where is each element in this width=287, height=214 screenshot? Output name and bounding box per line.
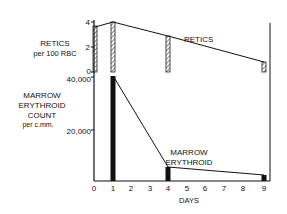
marrow-bar-day9 (262, 175, 267, 181)
retics-tick-2: 2 (86, 43, 91, 52)
retics-tick-4: 4 (86, 18, 91, 27)
marrow-axis-title-4: per c.mm. (22, 121, 53, 129)
marrow-series-label-1: MARROW (170, 148, 208, 157)
x-tick-4: 4 (166, 184, 171, 193)
marrow-axis-title-1: MARROW (23, 91, 61, 100)
marrow-bar-day1 (111, 76, 116, 181)
retics-series-label: RETICS (184, 35, 213, 44)
marrow-tick-40000: 40,000 (67, 75, 92, 84)
x-tick-3: 3 (148, 184, 153, 193)
x-tick-8: 8 (241, 184, 246, 193)
x-tick-0: 0 (92, 184, 97, 193)
retics-bar-day1 (111, 22, 115, 72)
retics-bar-day0 (93, 26, 97, 72)
retics-line (95, 22, 264, 62)
marrow-tick-20000: 20,000 (67, 127, 92, 136)
x-tick-5: 5 (185, 184, 190, 193)
x-tick-2: 2 (129, 184, 134, 193)
x-tick-1: 1 (111, 184, 116, 193)
marrow-series-label-2: ERYTHROID (166, 158, 213, 167)
x-axis-title: DAYS (179, 196, 199, 205)
marrow-axis-title-3: COUNT (28, 111, 57, 120)
marrow-axis-title-2: ERYTHROID (19, 101, 66, 110)
marrow-bar-day4 (166, 167, 171, 181)
retics-bar-day9 (262, 62, 266, 72)
x-tick-6: 6 (203, 184, 208, 193)
retics-axis-title: RETICS (40, 39, 69, 48)
x-tick-7: 7 (222, 184, 227, 193)
x-tick-9: 9 (262, 184, 267, 193)
chart-figure: 4 2 0 40,000 20,000 RETICS per 100 RBC M… (0, 0, 287, 214)
retics-axis-subtitle: per 100 RBC (33, 49, 77, 58)
retics-bar-day4 (166, 36, 170, 72)
